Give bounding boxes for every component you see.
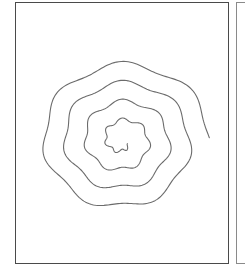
spiral-drawing [0, 0, 245, 266]
wavy-spiral-line [43, 61, 209, 205]
